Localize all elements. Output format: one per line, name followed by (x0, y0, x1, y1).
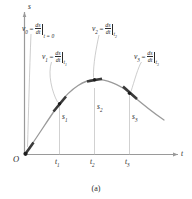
derivative-denominator-v0: dt (35, 29, 41, 35)
curve-point-t2 (93, 78, 96, 81)
curve-point-t3 (128, 92, 131, 95)
s-axis-arrow-icon (23, 12, 27, 17)
derivative-fraction-v3: ds dt (147, 50, 153, 64)
evaluation-point-v2: t2 (113, 31, 116, 39)
velocity-name-v0-sub: 0 (25, 28, 28, 34)
leader-line-v2 (93, 35, 99, 78)
velocity-name-v0: v0 (22, 24, 28, 35)
s-value-label-s1: s1 (62, 113, 67, 123)
s-value-label-s2: s2 (97, 103, 102, 113)
velocity-expression-v3: v3 = ds dt t3 (134, 50, 159, 64)
tick-label-t1: t1 (55, 158, 60, 168)
t-axis-arrow-icon (173, 153, 178, 157)
derivative-fraction-v1: ds dt (55, 50, 61, 64)
equals-sign-v0: = (29, 25, 33, 33)
velocity-name-v1: v1 (42, 52, 48, 63)
equals-sign-v3: = (141, 53, 145, 61)
tick-label-t3-sub: 3 (127, 162, 130, 168)
derivative-denominator-v2: dt (105, 29, 111, 35)
derivative-numerator-v3: ds (147, 50, 153, 56)
velocity-name-v1-sub: 1 (45, 56, 48, 62)
evaluation-point-v3: t3 (155, 59, 158, 67)
tick-label-t2-sub: 2 (92, 162, 95, 168)
velocity-expression-v1: v1 = ds dt t1 (42, 50, 67, 64)
velocity-name-v2: v2 (92, 24, 98, 35)
leader-line-v0 (28, 34, 32, 147)
s-value-label-s3: s3 (132, 113, 137, 123)
derivative-fraction-v0: ds dt (35, 22, 41, 36)
curve-point-t1 (58, 102, 61, 105)
velocity-name-v3: v3 (134, 52, 140, 63)
evaluation-point-v1-sub: 1 (65, 63, 67, 67)
evaluation-point-v3-sub: 3 (157, 63, 159, 67)
velocity-expression-v2: v2 = ds dt t2 (92, 22, 117, 36)
t-axis-label: t (181, 150, 183, 158)
derivative-numerator-v0: ds (35, 22, 41, 28)
velocity-expression-v0: v0 = ds dt t = 0 (22, 22, 54, 36)
curve-point-origin (23, 152, 27, 156)
velocity-name-v3-sub: 3 (137, 56, 140, 62)
equals-sign-v2: = (99, 25, 103, 33)
tick-label-t3: t3 (125, 158, 130, 168)
derivative-fraction-v2: ds dt (105, 22, 111, 36)
velocity-name-v2-sub: 2 (95, 28, 98, 34)
leader-line-v1 (50, 62, 58, 102)
evaluation-point-v2-sub: 2 (115, 35, 117, 39)
derivative-denominator-v1: dt (55, 57, 61, 63)
leader-line-v3 (131, 62, 142, 92)
position-time-figure: s t O t1 t2 t3 s1 s2 s3 v0 = ds dt t = 0… (0, 0, 192, 199)
equals-sign-v1: = (49, 53, 53, 61)
derivative-numerator-v2: ds (105, 22, 111, 28)
s-value-label-s3-sub: 3 (135, 117, 138, 123)
evaluation-point-v1: t1 (63, 59, 66, 67)
derivative-denominator-v3: dt (147, 57, 153, 63)
derivative-numerator-v1: ds (55, 50, 61, 56)
s-value-label-s1-sub: 1 (65, 117, 68, 123)
tick-label-t2: t2 (90, 158, 95, 168)
origin-label: O (13, 155, 19, 164)
s-axis-label: s (28, 3, 31, 11)
evaluation-point-v0: t = 0 (43, 33, 54, 39)
figure-caption: (a) (0, 184, 192, 193)
s-value-label-s2-sub: 2 (100, 107, 103, 113)
tick-label-t1-sub: 1 (57, 162, 60, 168)
